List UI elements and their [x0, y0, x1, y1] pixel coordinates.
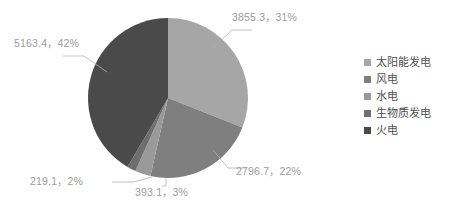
legend-item-label: 太阳能发电 [376, 57, 431, 68]
legend-item-label: 风电 [376, 74, 398, 85]
legend-swatch-icon [364, 93, 371, 100]
legend-item-label: 水电 [376, 91, 398, 102]
legend-item-label: 生物质发电 [376, 108, 431, 119]
leader-line-biomass [112, 177, 152, 182]
leader-line-hydro [162, 178, 166, 186]
legend-item[interactable]: 水电 [364, 88, 452, 105]
legend-swatch-icon [364, 76, 371, 83]
legend-item-label: 火电 [376, 125, 398, 136]
data-label-wind: 2796.7，22% [236, 166, 301, 177]
data-label-biomass: 219.1，2% [30, 176, 83, 187]
data-label-hydro: 393.1，3% [135, 187, 188, 198]
legend-swatch-icon [364, 59, 371, 66]
pie-chart-figure: 3855.3，31% 5163.4，42% 2796.7，22% 219.1，2… [0, 0, 452, 207]
pie-plot-area: 3855.3，31% 5163.4，42% 2796.7，22% 219.1，2… [0, 0, 360, 207]
pie-slice-group [88, 18, 248, 178]
chart-legend: 太阳能发电风电水电生物质发电火电 [364, 54, 452, 139]
legend-item[interactable]: 火电 [364, 122, 452, 139]
legend-item[interactable]: 太阳能发电 [364, 54, 452, 71]
legend-swatch-icon [364, 110, 371, 117]
legend-item[interactable]: 风电 [364, 71, 452, 88]
legend-swatch-icon [364, 127, 371, 134]
data-label-thermal: 5163.4，42% [14, 38, 79, 49]
data-label-solar: 3855.3，31% [232, 12, 297, 23]
legend-item[interactable]: 生物质发电 [364, 105, 452, 122]
